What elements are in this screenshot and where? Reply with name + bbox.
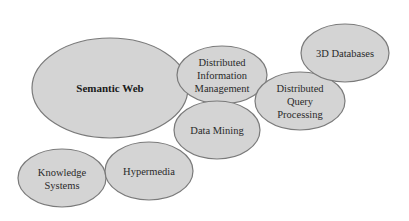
- technology-ellipse-diagram: Semantic WebDistributedInformationManage…: [0, 0, 409, 221]
- node-data-mining: Data Mining: [174, 101, 260, 159]
- node-label: Query: [287, 96, 314, 107]
- node-semantic-web: Semantic Web: [32, 38, 188, 138]
- node-label: Systems: [44, 180, 79, 191]
- node-label: Data Mining: [190, 125, 244, 136]
- node-label: 3D Databases: [316, 48, 374, 59]
- node-label: Distributed: [276, 83, 324, 94]
- ellipse-shape: [18, 149, 106, 207]
- node-label: Distributed: [198, 57, 246, 68]
- node-knowledge-systems: KnowledgeSystems: [18, 149, 106, 207]
- node-label: Management: [195, 83, 250, 94]
- node-3d-databases: 3D Databases: [301, 24, 389, 82]
- node-label: Processing: [277, 109, 323, 120]
- node-distributed-information-management: DistributedInformationManagement: [177, 46, 267, 104]
- node-label: Semantic Web: [76, 82, 143, 94]
- node-label: Hypermedia: [123, 166, 175, 177]
- node-label: Information: [197, 70, 248, 81]
- node-hypermedia: Hypermedia: [105, 142, 193, 200]
- node-label: Knowledge: [38, 167, 87, 178]
